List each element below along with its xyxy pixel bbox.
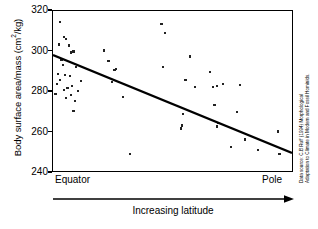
trend-line (53, 11, 292, 171)
y-axis-tick-label: 280 (22, 86, 48, 96)
y-axis-tick-mark (48, 171, 52, 172)
y-axis-tick-label: 300 (22, 46, 48, 56)
chart-figure: Body surface area/mass (cm2/kg) 32030028… (0, 0, 318, 229)
x-axis-start-label: Equator (55, 174, 90, 185)
y-axis-tick-label: 260 (22, 127, 48, 137)
y-axis-tick-mark (48, 50, 52, 51)
x-axis-end-label: Pole (262, 174, 282, 185)
y-axis-tick-label: 320 (22, 5, 48, 15)
y-axis-title-exponent: 2 (10, 34, 17, 38)
y-axis-tick-mark (48, 131, 52, 132)
increasing-latitude-arrow-icon (52, 194, 294, 204)
plot-area (52, 10, 293, 172)
y-axis-tick-mark (48, 9, 52, 10)
y-axis-tick-label: 240 (22, 167, 48, 177)
source-credit-line-2: Adaptation to Climate in Modern and Foss… (305, 13, 311, 183)
source-credit: Data source: C.B Ruff (1994) Morphologic… (299, 13, 311, 183)
x-axis-title: Increasing latitude (52, 205, 294, 216)
y-axis-tick-labels: 320300280260240 (20, 0, 48, 229)
y-axis-tick-mark (48, 90, 52, 91)
